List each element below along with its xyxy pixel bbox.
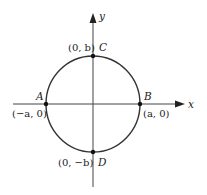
point-c-name: C [99, 41, 107, 53]
point-a-coords: (−a, 0) [12, 108, 47, 119]
y-axis-label: y [98, 10, 106, 22]
point-b-coords: (a, 0) [143, 108, 170, 119]
y-axis-arrow-icon [90, 13, 97, 23]
point-b [138, 102, 142, 106]
point-d-coords: (0, −b) [58, 157, 93, 168]
point-b-name: B [143, 90, 152, 102]
point-a [44, 102, 48, 106]
point-c-coords: (0, b) [68, 42, 95, 53]
point-d-name: D [97, 156, 107, 168]
point-c [91, 54, 95, 58]
x-axis-arrow-icon [175, 101, 185, 108]
point-a-name: A [35, 90, 44, 102]
point-d [91, 150, 95, 154]
x-axis-label: x [188, 98, 194, 110]
ellipse-diagram: x y A (−a, 0) B (a, 0) (0, b) C (0, −b) … [0, 0, 207, 195]
